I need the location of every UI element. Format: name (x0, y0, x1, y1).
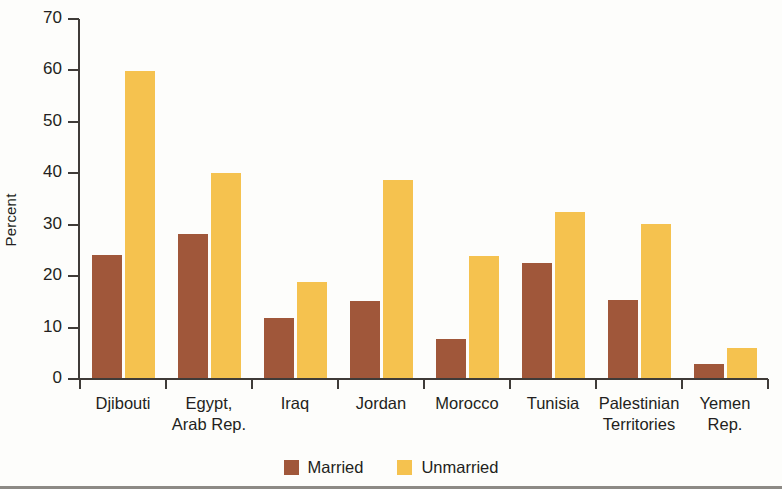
y-axis-tick (68, 18, 79, 20)
bar-unmarried (641, 224, 671, 380)
bar-chart: Percent 010203040506070 DjiboutiEgypt, A… (0, 0, 782, 489)
legend-label: Married (308, 458, 364, 477)
y-axis-tick-label: 40 (24, 163, 62, 180)
y-axis-tick-label: 0 (24, 369, 62, 386)
bar-married (608, 300, 638, 380)
category-tick (509, 379, 511, 389)
x-axis-label: Djibouti (80, 393, 166, 451)
x-axis-label: Egypt, Arab Rep. (166, 393, 252, 451)
y-axis-tick-label: 60 (24, 60, 62, 77)
bar-unmarried (211, 173, 241, 380)
bar-group (338, 19, 424, 380)
y-axis-tick (68, 224, 79, 226)
x-axis-labels: DjiboutiEgypt, Arab Rep.IraqJordanMorocc… (80, 393, 768, 451)
x-axis-label: Tunisia (510, 393, 596, 451)
chart-legend: MarriedUnmarried (0, 458, 782, 477)
category-tick (681, 379, 683, 389)
x-axis-label: Yemen Rep. (682, 393, 768, 451)
category-tick (165, 379, 167, 389)
y-axis-tick (68, 69, 79, 71)
bar-unmarried (297, 282, 327, 380)
bar-group (596, 19, 682, 380)
bar-group (80, 19, 166, 380)
y-axis-tick-label: 10 (24, 318, 62, 335)
y-axis-tick (68, 275, 79, 277)
bar-group (510, 19, 596, 380)
category-tick (79, 379, 81, 389)
legend-label: Unmarried (421, 458, 498, 477)
y-axis-tick-label: 70 (24, 9, 62, 26)
legend-swatch-icon (397, 460, 412, 475)
x-axis-label: Morocco (424, 393, 510, 451)
category-tick (251, 379, 253, 389)
bar-married (178, 234, 208, 380)
y-axis-tick (68, 172, 79, 174)
plot-area (80, 19, 768, 380)
y-axis-tick-label: 30 (24, 215, 62, 232)
legend-swatch-icon (284, 460, 299, 475)
x-axis-label: Jordan (338, 393, 424, 451)
bar-group (166, 19, 252, 380)
category-tick (337, 379, 339, 389)
bar-married (522, 263, 552, 380)
x-axis-label: Iraq (252, 393, 338, 451)
y-axis-tick (68, 121, 79, 123)
y-axis-title: Percent (2, 170, 19, 270)
bar-married (264, 318, 294, 380)
bar-unmarried (469, 256, 499, 380)
bar-unmarried (125, 71, 155, 380)
bar-married (92, 255, 122, 380)
bar-unmarried (727, 348, 757, 380)
y-axis-tick-label: 50 (24, 112, 62, 129)
bar-group (252, 19, 338, 380)
bar-married (436, 339, 466, 380)
legend-item: Unmarried (397, 458, 498, 477)
bar-unmarried (383, 180, 413, 380)
bar-unmarried (555, 212, 585, 380)
category-tick (595, 379, 597, 389)
x-axis-label: Palestinian Territories (596, 393, 682, 451)
bar-group (424, 19, 510, 380)
y-axis-tick-label: 20 (24, 266, 62, 283)
category-tick (767, 379, 769, 389)
bar-group (682, 19, 768, 380)
bar-married (350, 301, 380, 380)
y-axis-tick (68, 327, 79, 329)
category-tick (423, 379, 425, 389)
legend-item: Married (284, 458, 364, 477)
